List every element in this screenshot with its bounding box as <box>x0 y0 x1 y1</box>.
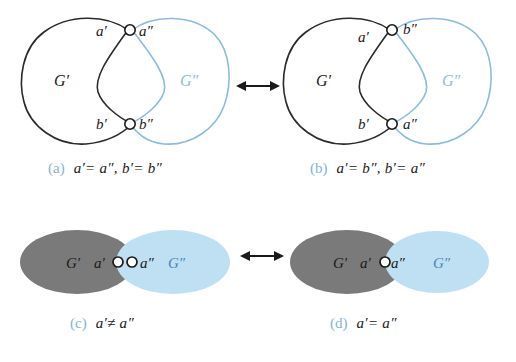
region-label-g-double-prime-c: G″ <box>168 255 186 271</box>
node-bottom-a <box>125 119 135 129</box>
node-label-a-prime-a: a′ <box>96 23 108 39</box>
node-bottom-b <box>387 119 397 129</box>
node-label-b-double-prime-a: b″ <box>139 116 154 132</box>
figure-container: G′ G″ a′ a″ b′ b″ G′ G″ a′ b″ b′ a″ <box>0 0 516 362</box>
node-label-a-double-prime-c: a″ <box>140 255 155 271</box>
node-label-b-prime-a: b′ <box>96 116 108 132</box>
graph-g-prime-outline-b <box>283 18 394 144</box>
node-label-a-prime-c: a′ <box>94 255 106 271</box>
region-label-g-double-prime-d: G″ <box>433 255 451 271</box>
node-top-a <box>125 25 135 35</box>
region-label-g-prime-c: G′ <box>66 255 81 271</box>
node-shared-d <box>380 257 390 267</box>
panel-c: G′ a′ a″ G″ <box>18 222 233 302</box>
caption-a: (a)a′= a″, b′= b″ <box>48 160 162 177</box>
caption-c: (c)a′≠ a″ <box>70 315 134 332</box>
caption-tag-c: (c) <box>70 315 87 331</box>
node-right-c <box>127 257 137 267</box>
node-label-a-double-prime-b: a″ <box>403 116 418 132</box>
panel-b: G′ G″ a′ b″ b′ a″ <box>272 8 497 158</box>
node-label-a-double-prime-a: a″ <box>139 23 154 39</box>
node-label-a-prime-b: a′ <box>358 29 370 45</box>
caption-d: (d)a′= a″ <box>330 315 397 332</box>
graph-g-prime-outline-a <box>21 18 132 144</box>
node-label-b-prime-b: b′ <box>358 116 370 132</box>
caption-tag-b: (b) <box>310 160 328 176</box>
node-top-b <box>387 25 397 35</box>
node-left-c <box>113 257 123 267</box>
caption-formula-d: a′= a″ <box>357 315 397 331</box>
transform-arrow-bottom <box>240 248 284 268</box>
caption-tag-d: (d) <box>330 315 348 331</box>
region-label-g-prime-d: G′ <box>333 255 348 271</box>
caption-formula-a: a′= a″, b′= b″ <box>74 160 163 176</box>
caption-formula-b: a′= b″, b′= a″ <box>337 160 426 176</box>
panel-d: G′ a′ a″ G″ <box>285 222 500 302</box>
node-label-b-double-prime-b: b″ <box>403 21 418 37</box>
caption-b: (b)a′= b″, b′= a″ <box>310 160 425 177</box>
node-label-a-prime-d: a′ <box>360 255 372 271</box>
node-label-a-double-prime-d: a″ <box>391 255 406 271</box>
panel-a: G′ G″ a′ a″ b′ b″ <box>10 8 235 158</box>
region-label-g-double-prime-a: G″ <box>180 72 199 89</box>
transform-arrow-top <box>236 78 280 98</box>
caption-tag-a: (a) <box>48 160 65 176</box>
caption-formula-c: a′≠ a″ <box>96 315 134 331</box>
region-label-g-prime-b: G′ <box>316 72 332 89</box>
region-label-g-prime-a: G′ <box>54 72 70 89</box>
region-label-g-double-prime-b: G″ <box>442 72 461 89</box>
